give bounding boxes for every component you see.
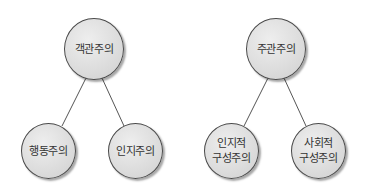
node-label: 인지주의 — [116, 144, 155, 159]
edge-subjectivism-cognitive-constructivism — [244, 78, 268, 126]
node-label: 인지적 구성주의 — [212, 136, 251, 166]
node-subjectivism: 주관주의 — [246, 18, 306, 80]
node-objectivism: 객관주의 — [64, 18, 124, 80]
node-label: 행동주의 — [29, 144, 68, 159]
edge-objectivism-cognitivism — [102, 78, 124, 126]
node-social-constructivism: 사회적 구성주의 — [291, 123, 346, 179]
edge-subjectivism-social-constructivism — [284, 78, 306, 126]
node-behaviorism: 행동주의 — [21, 123, 76, 179]
node-cognitivism: 인지주의 — [108, 123, 163, 179]
node-label: 주관주의 — [257, 42, 296, 57]
node-label: 사회적 구성주의 — [299, 136, 338, 166]
node-cognitive-constructivism: 인지적 구성주의 — [204, 123, 259, 179]
node-label: 객관주의 — [75, 42, 114, 57]
edge-objectivism-behaviorism — [62, 78, 86, 126]
